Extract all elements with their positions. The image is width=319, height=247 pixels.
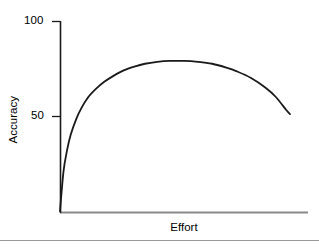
chart-figure: 100 50 Accuracy Effort [0,0,319,247]
y-axis-label: Accuracy [8,80,20,160]
accuracy-effort-curve [60,61,290,211]
x-axis-label: Effort [60,222,308,234]
footer-divider [0,240,319,241]
y-axis-tick-label-100: 100 [24,15,44,27]
y-axis-tick-label-50: 50 [31,110,44,122]
chart-plot-area [0,0,319,247]
